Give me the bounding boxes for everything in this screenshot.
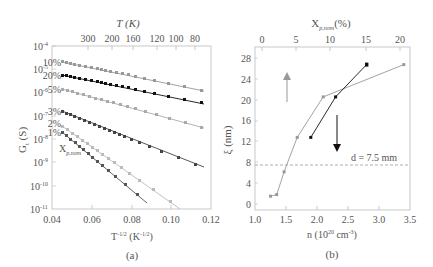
x-tick: 0.06	[83, 214, 101, 225]
x-tick: 3.0	[373, 214, 386, 225]
x-tick: 1.5	[280, 214, 293, 225]
top-tick: 160	[126, 33, 141, 44]
y-tick: 10-10	[30, 181, 48, 192]
y-tick: 0	[246, 199, 251, 210]
series-label-5: 5%	[48, 84, 61, 95]
x-tick: 3.5	[404, 214, 417, 225]
y-tick: 10-4	[33, 41, 48, 52]
figure: T (K) 300 200 160 120 100 80 10-4 10-5 1…	[0, 0, 433, 267]
y-tick: 28	[241, 53, 251, 64]
plot-a-top-ticks: 300 200 160 120 100 80	[81, 33, 201, 44]
x-tick: 0.04	[43, 214, 61, 225]
plot-a-frame	[52, 46, 211, 209]
series-black-line	[311, 65, 367, 138]
y-tick: 4	[246, 178, 251, 189]
plot-b-x-ticks: 1.0 1.5 2.0 2.5 3.0 3.5	[249, 214, 417, 225]
top-tick: 120	[150, 33, 165, 44]
plot-a-x-ticks: 0.04 0.06 0.08 0.10 0.12	[43, 214, 220, 225]
top-tick: 0	[260, 34, 265, 45]
y-tick: 20	[241, 95, 251, 106]
panel-a: T (K) 300 200 160 120 100 80 10-4 10-5 1…	[16, 17, 220, 262]
panel-b: Xp,nom(%) 0 5 10 15 20 28 24 20 16 12 8 …	[221, 17, 416, 261]
plot-b-x-label: n (1020 cm-3)	[307, 229, 357, 241]
y-tick: 10-6	[33, 87, 48, 98]
x-tick: 0.08	[123, 214, 141, 225]
plot-b-y-ticks: 28 24 20 16 12 8 4 0	[241, 53, 251, 210]
plot-a-series	[61, 60, 204, 209]
y-tick: 24	[241, 74, 251, 85]
x-tick: 1.0	[249, 214, 262, 225]
y-tick: 10-8	[33, 134, 48, 145]
series-label-20: 20%	[43, 70, 61, 81]
y-tick: 10-9	[33, 157, 48, 168]
series-label-1: 1%	[48, 127, 61, 138]
series-black-markers	[309, 63, 368, 139]
y-tick: 12	[241, 136, 251, 147]
y-tick: 10-7	[33, 111, 48, 122]
plot-a-top-tick-marks	[88, 46, 195, 50]
hline-d-label: d = 7.5 mm	[351, 152, 397, 163]
x-tick: 0.10	[162, 214, 180, 225]
series-label-10: 10%	[43, 57, 61, 68]
plot-a-top-axis-title: T (K)	[116, 17, 140, 30]
plot-b-caption: (b)	[326, 248, 339, 261]
top-tick: 10	[325, 34, 335, 45]
top-tick: 5	[294, 34, 299, 45]
plot-a-caption: (a)	[126, 249, 139, 262]
top-tick: 200	[105, 33, 120, 44]
x-tick: 2.5	[342, 214, 355, 225]
x-tick: 0.12	[202, 214, 220, 225]
plot-b-top-ticks: 0 5 10 15 20	[260, 34, 406, 45]
top-tick: 80	[190, 33, 200, 44]
x-tick: 2.0	[311, 214, 324, 225]
y-tick: 16	[241, 115, 251, 126]
top-tick: 300	[81, 33, 96, 44]
legend-title: Xp,nom	[59, 143, 82, 156]
plot-a-y-label: Gt (S)	[16, 127, 31, 153]
arrow-up-icon	[283, 72, 291, 102]
arrow-down-icon	[333, 115, 341, 152]
y-tick: 8	[246, 157, 251, 168]
top-tick: 20	[395, 34, 405, 45]
plot-a-x-label: T-1/2 (K-1/2)	[111, 231, 153, 243]
plot-b-top-axis-title: Xp,nom(%)	[311, 17, 351, 31]
series-label-3: 3%	[48, 106, 61, 117]
top-tick: 15	[361, 34, 371, 45]
plot-b-top-tick-marks	[262, 47, 400, 51]
plot-b-x-tick-marks	[286, 206, 379, 210]
plot-b-y-label: ξ (nm)	[221, 125, 234, 154]
top-tick: 100	[169, 33, 184, 44]
plot-a-x-tick-marks	[92, 205, 171, 209]
plot-b-y-tick-marks	[255, 58, 258, 204]
